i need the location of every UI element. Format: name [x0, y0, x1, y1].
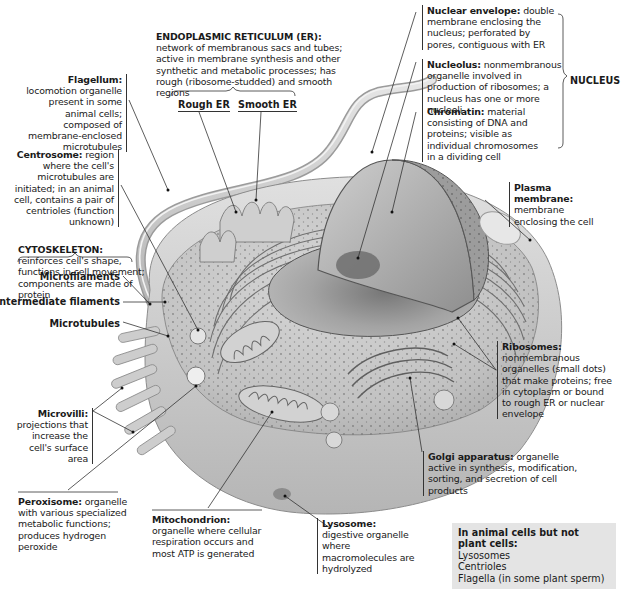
animal-only-note: In animal cells but not plant cells: Lys…: [452, 523, 616, 589]
peroxisome-label: Peroxisome: organelle with various speci…: [18, 496, 128, 552]
mitochondrion-desc: organelle where cellular respiration occ…: [152, 525, 261, 558]
nuclear-envelope-title: Nuclear envelope:: [427, 5, 520, 16]
nucleolus: [336, 251, 380, 279]
lysosome-desc: digestive organelle where macromolecules…: [322, 529, 414, 574]
microtubules-label: Microtubules: [50, 318, 120, 329]
flagellum-title: Flagellum:: [68, 74, 122, 85]
centrosome-label: Centrosome: region where the cell's micr…: [12, 149, 119, 227]
chromatin-label: Chromatin: material consisting of DNA an…: [422, 106, 547, 162]
ribosomes-title: Ribosomes:: [502, 341, 562, 352]
nuclear-envelope-label: Nuclear envelope: double membrane enclos…: [422, 5, 559, 50]
er-desc: network of membranous sacs and tubes; ac…: [156, 42, 342, 98]
golgi-label: Golgi apparatus: organelle active in syn…: [423, 451, 578, 496]
lysosome-label: Lysosome: digestive organelle where macr…: [317, 518, 418, 574]
note-item-centrioles: Centrioles: [458, 561, 610, 572]
intermediate-filaments-label: Intermediate filaments: [0, 296, 120, 307]
note-item-lysosomes: Lysosomes: [458, 550, 610, 561]
plasma-membrane-label: Plasma membrane: membrane enclosing the …: [509, 182, 610, 227]
smooth-er-label: Smooth ER: [238, 99, 297, 112]
microvilli-title: Microvilli:: [38, 408, 88, 419]
note-heading: In animal cells but not plant cells:: [458, 527, 610, 550]
nucleolus-title: Nucleolus:: [427, 59, 481, 70]
peroxisome: [187, 367, 205, 385]
plasma-membrane-title: Plasma membrane:: [514, 182, 573, 204]
microvilli-desc: projections that increase the cell's sur…: [17, 419, 88, 464]
centrosome-title: Centrosome:: [17, 149, 83, 160]
peroxisome-title: Peroxisome:: [18, 496, 82, 507]
microfilaments-label: Microfilaments: [40, 271, 120, 282]
ribosomes-desc: nonmembranous organelles (small dots) th…: [502, 352, 612, 419]
lysosome-title: Lysosome:: [322, 518, 376, 529]
rough-er-label: Rough ER: [178, 99, 230, 112]
ribosomes-label: Ribosomes: nonmembranous organelles (sma…: [497, 341, 614, 419]
note-item-flagella: Flagella (in some plant sperm): [458, 573, 610, 584]
flagellum-desc: locomotion organelle present in some ani…: [26, 85, 122, 152]
golgi-title: Golgi apparatus:: [428, 451, 514, 462]
nucleus-group-label: NUCLEUS: [570, 75, 620, 86]
microvilli-label: Microvilli: projections that increase th…: [14, 408, 93, 464]
er-title: ENDOPLASMIC RETICULUM (ER):: [156, 31, 322, 42]
flagellum-label: Flagellum: locomotion organelle present …: [22, 74, 127, 152]
chromatin-title: Chromatin:: [427, 106, 484, 117]
centrosome-desc: region where the cell's microtubules are…: [14, 149, 114, 227]
er-label: ENDOPLASMIC RETICULUM (ER): network of m…: [156, 31, 346, 98]
plasma-membrane-desc: membrane enclosing the cell: [514, 204, 593, 226]
mitochondrion-label: Mitochondrion: organelle where cellular …: [152, 514, 268, 559]
mitochondrion-title: Mitochondrion:: [152, 514, 230, 525]
cytoskeleton-title: CYTOSKELETON:: [18, 244, 103, 255]
